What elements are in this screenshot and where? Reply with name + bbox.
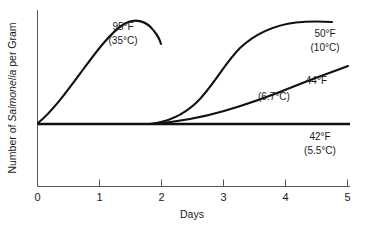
- series-label-50f-line1: 50°F: [314, 28, 335, 39]
- x-tick-label-0: 0: [34, 191, 40, 203]
- series-label-50f-line2: (10°C): [310, 42, 339, 53]
- series-label-95f-line1: 95°F: [112, 21, 133, 32]
- x-tick-label-5: 5: [344, 191, 350, 203]
- salmonella-growth-chart: 0 1 2 3 4 5 Days Number of Salmonella pe…: [0, 0, 365, 228]
- x-tick-label-3: 3: [220, 191, 226, 203]
- y-axis-title: Number of Salmonella per Gram: [6, 22, 18, 173]
- x-tick-marks: [38, 180, 348, 187]
- x-tick-label-2: 2: [158, 191, 164, 203]
- series-label-44f-line2: (6.7°C): [258, 91, 290, 102]
- series-label-42f-line1: 42°F: [309, 131, 330, 142]
- y-axis-title-italic: Salmonella: [6, 70, 18, 122]
- y-axis-title-prefix: Number of: [6, 122, 18, 174]
- series-label-42f-line2: (5.5°C): [304, 145, 336, 156]
- series-label-44f-line1: 44°F: [306, 75, 327, 86]
- x-tick-label-4: 4: [282, 191, 288, 203]
- curve-50f: [150, 22, 332, 125]
- y-axis-title-suffix: per Gram: [6, 22, 18, 70]
- curve-95f: [38, 21, 161, 123]
- x-axis-title: Days: [180, 208, 204, 220]
- series-label-95f-line2: (35°C): [108, 35, 137, 46]
- x-tick-label-1: 1: [96, 191, 102, 203]
- chart-axes: [38, 10, 351, 187]
- chart-canvas: 0 1 2 3 4 5 Days Number of Salmonella pe…: [0, 0, 365, 228]
